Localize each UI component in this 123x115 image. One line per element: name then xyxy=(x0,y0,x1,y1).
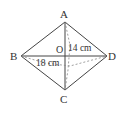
measure-18cm: 18 cm xyxy=(36,58,60,68)
vertex-b-label: B xyxy=(10,50,17,62)
center-o-label: O xyxy=(56,44,63,55)
vertex-c-label: C xyxy=(60,93,67,105)
vertex-d-label: D xyxy=(108,50,116,62)
dashed-line-b xyxy=(21,56,107,66)
measure-14cm: 14 cm xyxy=(68,43,92,53)
rhombus-diagram: A B C D O 14 cm 18 cm xyxy=(0,0,123,115)
vertex-a-label: A xyxy=(60,8,68,20)
